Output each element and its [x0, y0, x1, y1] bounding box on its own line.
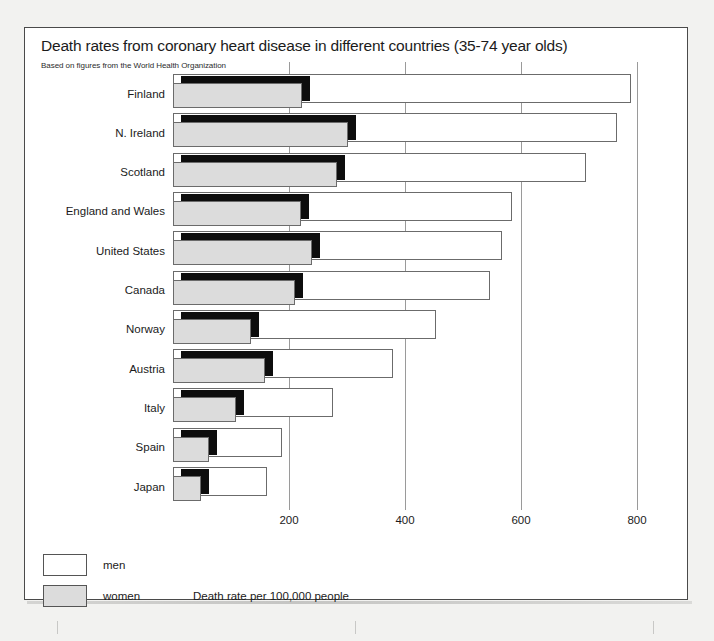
- bar-women: [173, 358, 265, 383]
- legend-label-men: men: [103, 559, 125, 571]
- category-label: Norway: [126, 323, 165, 335]
- legend-swatch-women: [43, 585, 87, 607]
- category-label: United States: [96, 245, 165, 257]
- legend-swatch-men: [43, 554, 87, 576]
- registration-tick: [355, 621, 356, 634]
- category-label: England and Wales: [66, 205, 165, 217]
- category-label: Japan: [134, 481, 165, 493]
- chart-card: Death rates from coronary heart disease …: [24, 27, 688, 600]
- x-tick-label: 800: [627, 514, 646, 526]
- category-axis-labels: FinlandN. IrelandScotlandEngland and Wal…: [25, 28, 165, 601]
- category-label: Austria: [129, 363, 165, 375]
- legend-label-women: women: [103, 590, 140, 602]
- x-tick-label: 400: [395, 514, 414, 526]
- x-tick-label: 200: [279, 514, 298, 526]
- registration-tick: [57, 621, 58, 634]
- bar-women: [173, 280, 295, 305]
- bar-women: [173, 319, 251, 344]
- category-label: N. Ireland: [115, 127, 165, 139]
- category-label: Italy: [144, 402, 165, 414]
- bar-women: [173, 397, 236, 422]
- registration-tick: [653, 621, 654, 634]
- bar-women: [173, 122, 348, 147]
- bar-women: [173, 83, 302, 108]
- bar-women: [173, 162, 337, 187]
- category-label: Scotland: [120, 166, 165, 178]
- bar-women: [173, 437, 209, 462]
- category-label: Finland: [127, 88, 165, 100]
- bar-women: [173, 201, 301, 226]
- bar-women: [173, 476, 201, 501]
- x-axis-caption: Death rate per 100,000 people: [193, 590, 349, 602]
- category-label: Spain: [136, 441, 165, 453]
- gridline-800: [637, 62, 638, 510]
- x-tick-label: 600: [511, 514, 530, 526]
- category-label: Canada: [125, 284, 165, 296]
- bar-women: [173, 240, 312, 265]
